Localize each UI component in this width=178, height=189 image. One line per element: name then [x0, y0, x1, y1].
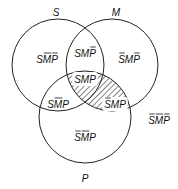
svg-text:P: P [133, 54, 140, 65]
region-label-m-only: SMP [118, 53, 140, 65]
set-label-m: M [112, 7, 121, 18]
svg-text:P: P [89, 132, 96, 143]
region-label-s-and-p: SMP [47, 98, 69, 110]
set-label-s: S [53, 7, 60, 18]
set-label-p: P [82, 173, 89, 184]
region-label-p-only: SMP [74, 131, 96, 143]
svg-text:P: P [89, 74, 96, 85]
svg-text:P: P [163, 115, 170, 126]
region-label-s-only: SMP [36, 53, 58, 65]
region-label-s-m-p: SMP [72, 72, 98, 86]
svg-text:P: P [119, 99, 126, 110]
region-label-m-and-p: SMP [102, 97, 128, 111]
svg-text:P: P [51, 54, 58, 65]
region-label-s-and-m: SMP [74, 47, 96, 59]
svg-text:P: P [89, 48, 96, 59]
venn-diagram: SMP SMPSMPSMPSMPSMPSMPSMPSMP [0, 0, 178, 189]
circle-s [12, 19, 104, 111]
region-label-outside: SMP [148, 114, 170, 126]
svg-text:P: P [62, 99, 69, 110]
